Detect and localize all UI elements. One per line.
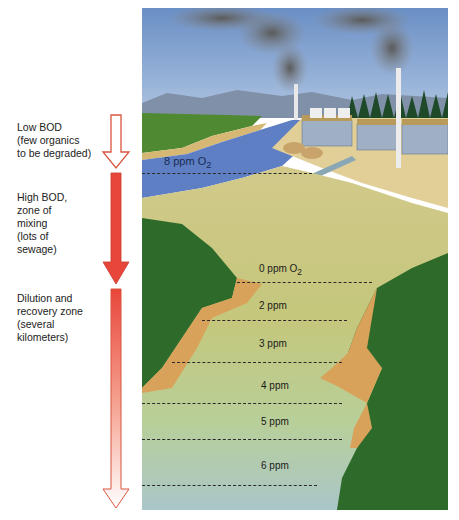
zone-boundary-line [142, 173, 312, 174]
oxygen-label-2ppm: 2 ppm [259, 300, 287, 311]
zone-label-recovery: Dilution and recovery zone (several kilo… [17, 292, 83, 344]
oxygen-label-8ppm: 8 ppm O2 [164, 155, 211, 170]
smokestack-right [396, 68, 401, 168]
zone-boundary-line [142, 439, 342, 440]
smokestack-left [294, 84, 298, 120]
oxygen-label-3ppm: 3 ppm [259, 338, 287, 349]
zone-boundary-line [142, 485, 317, 486]
zone-arrows [100, 112, 132, 512]
zone-boundary-line [237, 282, 372, 283]
arrow-gradient-icon [103, 289, 129, 508]
arrow-solid-red-icon [103, 173, 129, 284]
oxygen-label-4ppm: 4 ppm [261, 380, 289, 391]
zone-boundary-line [172, 362, 342, 363]
zone-boundary-line [142, 403, 342, 404]
zone-label-low-bod: Low BOD (few organics to be degraded) [17, 121, 91, 160]
arrow-outline-icon [103, 115, 129, 168]
oxygen-label-0ppm: 0 ppm O2 [259, 263, 302, 277]
zone-boundary-line [202, 320, 347, 321]
zone-label-high-bod: High BOD, zone of mixing (lots of sewage… [17, 191, 67, 256]
oxygen-label-5ppm: 5 ppm [261, 416, 289, 427]
oxygen-label-6ppm: 6 ppm [261, 460, 289, 471]
river-illustration: 8 ppm O2 0 ppm O2 2 ppm 3 ppm 4 ppm 5 pp… [142, 8, 448, 510]
